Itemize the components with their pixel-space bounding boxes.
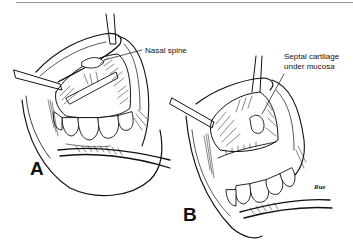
nasal-spine-label: Nasal spine — [145, 46, 187, 56]
surgical-illustration — [0, 0, 353, 247]
panel-a-letter: A — [30, 159, 44, 178]
septal-cartilage-label-line2: under mucosa — [284, 62, 339, 72]
artist-signature: Rue — [314, 183, 326, 191]
panel-b-letter: B — [183, 205, 197, 224]
septal-cartilage-label: Septal cartilage under mucosa — [284, 52, 339, 72]
septal-cartilage-label-line1: Septal cartilage — [284, 52, 339, 62]
